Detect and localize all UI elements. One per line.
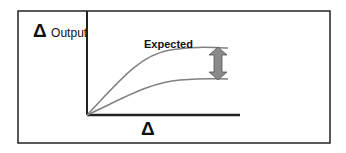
actual-curve <box>87 79 228 115</box>
expected-label: Expected <box>144 38 193 50</box>
y-axis-label-text: Output <box>51 26 87 40</box>
delta-symbol: Δ <box>33 20 47 41</box>
y-axis-label: Δ Output <box>33 20 87 42</box>
gap-double-arrow-icon <box>209 47 227 80</box>
x-axis-delta-symbol: Δ <box>141 118 155 140</box>
